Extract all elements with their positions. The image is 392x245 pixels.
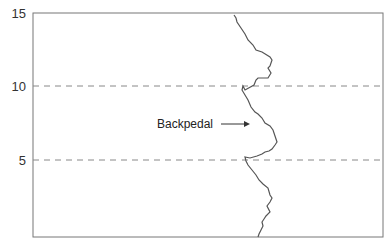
y-tick-5: 5 [19,153,26,168]
y-tick-15: 15 [12,6,26,21]
data-line [234,15,277,237]
y-tick-10: 10 [12,79,26,94]
annotation-label: Backpedal [157,117,213,131]
chart: 15 10 5 Backpedal [0,0,392,245]
annotation-arrowhead-icon [244,121,250,127]
